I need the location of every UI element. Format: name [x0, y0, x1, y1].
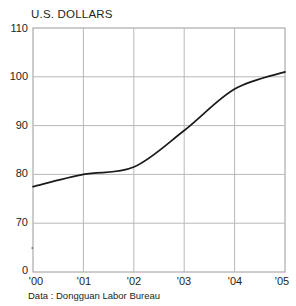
x-tick-label-04: '04 [228, 276, 242, 287]
plot-area [0, 0, 296, 306]
x-tick-label-02: '02 [127, 276, 141, 287]
line-chart: U.S. DOLLARS 110 100 90 80 70 0 [0, 0, 296, 306]
x-tick-label-01: '01 [77, 276, 91, 287]
x-tick-label-03: '03 [177, 276, 191, 287]
x-tick-label-00: '00 [29, 276, 43, 287]
source-note: Data : Dongguan Labor Bureau [28, 290, 160, 301]
x-tick-label-05: '05 [275, 276, 289, 287]
